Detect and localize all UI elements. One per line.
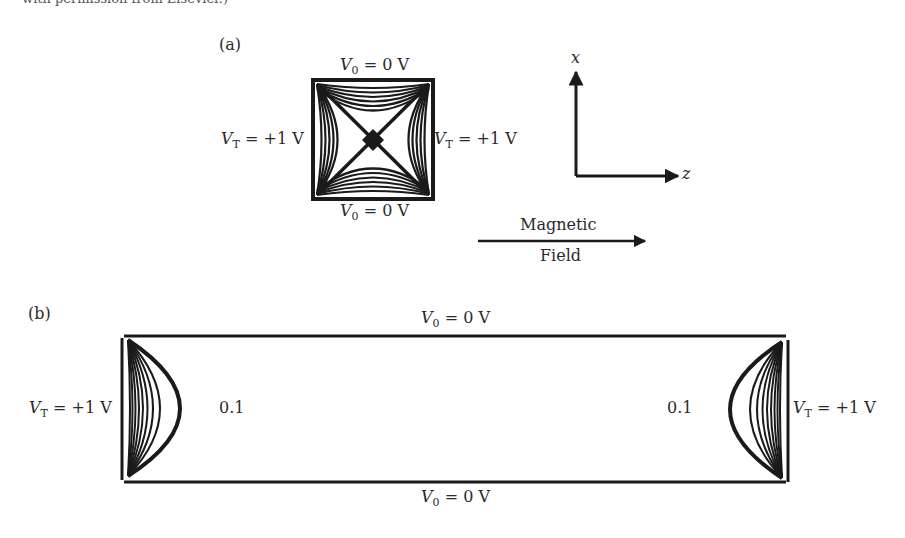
panel-b-right-electrode-label: VT = +1 V	[793, 399, 876, 423]
x-axis-label: x	[571, 49, 580, 67]
panel-a-right-electrode-label: VT = +1 V	[434, 130, 517, 154]
panel-a-bottom-electrode-label: V0 = 0 V	[340, 202, 409, 226]
magnetic-field-label-line2: Field	[540, 247, 581, 265]
diagram-canvas	[0, 0, 905, 538]
panel-b-top-electrode-label: V0 = 0 V	[421, 309, 490, 333]
panel-b-right-contours	[730, 342, 782, 478]
panel-b-left-electrode-label: VT = +1 V	[29, 399, 112, 423]
panel-b-left-contours	[128, 340, 180, 476]
panel-a-bottom-contours	[317, 169, 429, 196]
panel-a-top-contours	[317, 84, 429, 111]
panel-a-trap	[313, 80, 433, 199]
panel-b-right-contour-label: 0.1	[667, 399, 692, 417]
panel-a-label: (a)	[219, 36, 241, 54]
coordinate-axes	[576, 72, 678, 176]
panel-b-left-contour-label: 0.1	[219, 399, 244, 417]
panel-a-left-electrode-label: VT = +1 V	[221, 130, 304, 154]
magnetic-field-label-line1: Magnetic	[520, 216, 596, 234]
panel-a-top-electrode-label: V0 = 0 V	[340, 56, 409, 80]
panel-b-label: (b)	[28, 305, 51, 323]
z-axis-label: z	[682, 165, 690, 183]
panel-b-bottom-electrode-label: V0 = 0 V	[421, 488, 490, 512]
